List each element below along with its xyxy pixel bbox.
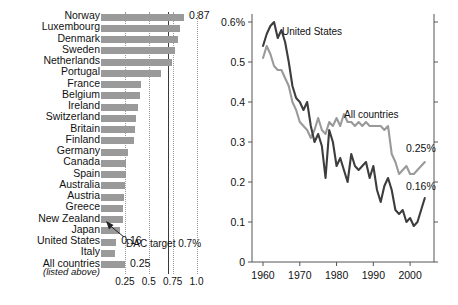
- line-chart-x-ticks: [263, 262, 410, 266]
- series-label-united-states: United States: [282, 26, 342, 37]
- aid-trend-line-chart: 0.6%0.50.40.30.20.10 1960197019801990200…: [212, 0, 458, 305]
- line-chart-left-ticks: [248, 22, 252, 262]
- line-chart-xtick-1960: 1960: [251, 269, 274, 281]
- series-line-united-states: [263, 22, 425, 226]
- end-label-united-states: 0.16%: [406, 180, 436, 192]
- line-chart-ytick-05: 0.5: [212, 56, 245, 68]
- line-chart-xtick-2000: 2000: [398, 269, 421, 281]
- line-chart-ytick-0: 0: [212, 256, 245, 268]
- line-chart-ytick-06: 0.6%: [212, 16, 245, 28]
- line-chart-ytick-02: 0.2: [212, 176, 245, 188]
- line-chart-ytick-04: 0.4: [212, 96, 245, 108]
- dac-target-arrow-icon: [0, 0, 212, 305]
- line-chart-ytick-03: 0.3: [212, 136, 245, 148]
- line-chart-xtick-1970: 1970: [288, 269, 311, 281]
- series-label-all-countries: All countries: [344, 109, 398, 120]
- line-chart-xtick-1990: 1990: [362, 269, 385, 281]
- aid-bar-chart: Norway0.87LuxembourgDenmarkSwedenNetherl…: [0, 0, 212, 305]
- end-label-all-countries: 0.25%: [406, 142, 436, 154]
- line-chart-xtick-1980: 1980: [325, 269, 348, 281]
- line-chart-ytick-01: 0.1: [212, 216, 245, 228]
- figure-root: Norway0.87LuxembourgDenmarkSwedenNetherl…: [0, 0, 458, 305]
